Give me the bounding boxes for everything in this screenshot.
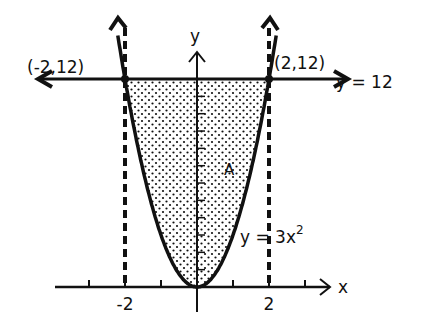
area-diagram: y x (-2,12) (2,12) y = 12 A y = 3x2 -22 xyxy=(0,0,424,331)
intersection-point-left xyxy=(121,75,129,83)
intersection-point-right xyxy=(265,75,273,83)
x-tick-labels: -22 xyxy=(117,294,275,314)
x-tick-label: -2 xyxy=(117,294,134,314)
line-y-12-label: y = 12 xyxy=(336,72,393,92)
x-tick-label: 2 xyxy=(264,294,275,314)
right-point-label: (2,12) xyxy=(274,53,325,73)
x-axis-label: x xyxy=(338,277,348,297)
curve-label-base: y = 3x xyxy=(240,227,296,247)
y-axis-label: y xyxy=(190,26,200,46)
region-label: A xyxy=(224,161,235,179)
curve-label: y = 3x2 xyxy=(240,223,304,247)
left-point-label: (-2,12) xyxy=(27,57,84,77)
curve-label-exponent: 2 xyxy=(296,223,304,237)
parabola-left-arrow-icon xyxy=(110,18,126,30)
